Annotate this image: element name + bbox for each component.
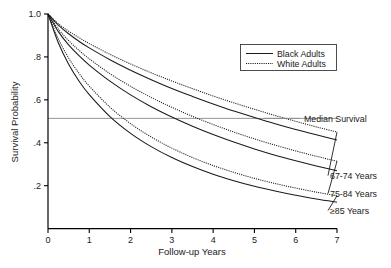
- y-tick-label: .2: [33, 181, 41, 191]
- median-survival-label: Median Survival: [304, 114, 367, 124]
- survival-curve-figure: 1.0.8.6.4.2 01234567 Survival Probabilit…: [0, 0, 391, 268]
- x-tick-label: 6: [293, 235, 298, 245]
- x-tick-label: 4: [211, 235, 216, 245]
- x-tick-label: 5: [252, 235, 257, 245]
- x-axis-title: Follow-up Years: [158, 246, 226, 257]
- y-tick-label: .6: [33, 95, 41, 105]
- x-tick-label: 7: [334, 235, 339, 245]
- x-tick-label: 1: [87, 235, 92, 245]
- chart-background: [0, 0, 391, 268]
- legend-label-black-adults: Black Adults: [277, 49, 326, 59]
- x-tick-label: 3: [169, 235, 174, 245]
- y-axis-title: Survival Probability: [9, 81, 20, 162]
- legend[interactable]: Black Adults White Adults: [241, 45, 337, 71]
- y-tick-label: 1.0: [28, 9, 41, 19]
- x-tick-label: 2: [128, 235, 133, 245]
- legend-label-white-adults: White Adults: [277, 59, 326, 69]
- chart-canvas: 1.0.8.6.4.2 01234567 Survival Probabilit…: [0, 0, 391, 268]
- group-label-67-74: 67-74 Years: [330, 171, 378, 181]
- group-label-85-plus: ≥85 Years: [330, 206, 370, 216]
- x-tick-label: 0: [45, 235, 50, 245]
- y-tick-label: .4: [33, 138, 41, 148]
- y-tick-label: .8: [33, 52, 41, 62]
- group-label-75-84: 75-84 Years: [330, 189, 378, 199]
